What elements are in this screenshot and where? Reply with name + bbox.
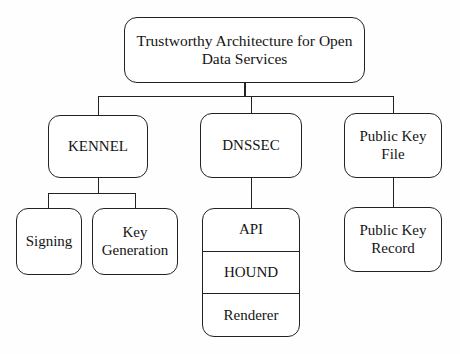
node-signing: Signing (16, 208, 82, 275)
node-public-key-record-label: Public Key Record (355, 222, 430, 257)
node-stack-segment-api: API (203, 209, 299, 252)
node-kennel-label: KENNEL (64, 138, 132, 156)
connector-drop-dnssec (251, 96, 253, 114)
connector-kennel-bus (48, 193, 135, 195)
connector-dnssec-to-stack (251, 178, 253, 209)
connector-drop-kennel (98, 96, 100, 116)
connector-level1-bus (98, 96, 394, 98)
connector-drop-signing (48, 193, 50, 209)
connector-drop-public-key-file (393, 96, 395, 114)
connector-kennel-trunk (98, 178, 100, 193)
node-root-trustworthy-architecture: Trustworthy Architecture for Open Data S… (124, 17, 365, 83)
node-public-key-record: Public Key Record (344, 207, 442, 272)
node-signing-label: Signing (22, 233, 77, 251)
node-root-label: Trustworthy Architecture for Open Data S… (133, 32, 357, 69)
node-public-key-file: Public Key File (344, 113, 442, 178)
connector-public-key-file-to-record (393, 178, 395, 208)
node-dnssec: DNSSEC (200, 113, 302, 178)
connector-drop-key-generation (135, 193, 137, 209)
node-stack-segment-hound: HOUND (203, 252, 299, 295)
node-dnssec-label: DNSSEC (218, 137, 284, 155)
architecture-diagram: Trustworthy Architecture for Open Data S… (0, 0, 460, 354)
node-dnssec-component-stack: API HOUND Renderer (202, 208, 300, 337)
node-stack-segment-renderer-label: Renderer (224, 307, 279, 324)
node-key-generation: Key Generation (92, 208, 178, 275)
node-kennel: KENNEL (48, 115, 148, 178)
node-stack-segment-hound-label: HOUND (224, 264, 278, 281)
node-public-key-file-label: Public Key File (355, 128, 430, 163)
node-stack-segment-api-label: API (239, 221, 263, 238)
node-stack-segment-renderer: Renderer (203, 294, 299, 336)
node-key-generation-label: Key Generation (98, 224, 173, 259)
